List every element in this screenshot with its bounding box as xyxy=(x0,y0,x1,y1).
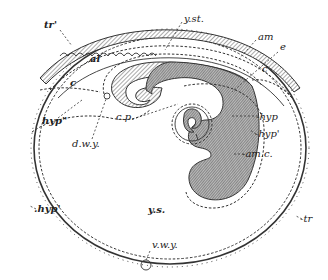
label-c-right: c xyxy=(262,63,268,74)
embryo-diagram: tr' y.st. am e al c c hyp" d.w.y. c.p. -… xyxy=(0,0,328,280)
label-tr: -tr xyxy=(300,213,313,224)
label-am: am xyxy=(258,31,273,42)
label-e: e xyxy=(280,41,286,52)
label-c-left: c xyxy=(70,77,76,88)
label-y-st: y.st. xyxy=(183,13,204,24)
label-hyp-prime-left: .hyp' xyxy=(34,203,61,214)
label-tr-prime: tr' xyxy=(44,19,57,30)
label-d-w-y: d.w.y. xyxy=(72,138,100,149)
label-v-w-y: v.w.y. xyxy=(152,239,178,250)
label-hyp: -hyp xyxy=(256,111,278,122)
label-hyp-prime-right: -hyp' xyxy=(255,128,280,139)
label-al: al xyxy=(90,53,100,64)
label-y-s: y.s. xyxy=(147,204,165,215)
label-am-c: -am.c. xyxy=(242,148,273,159)
label-hyp-double-prime: hyp" xyxy=(42,115,67,126)
label-c-p: c.p. xyxy=(116,111,134,122)
